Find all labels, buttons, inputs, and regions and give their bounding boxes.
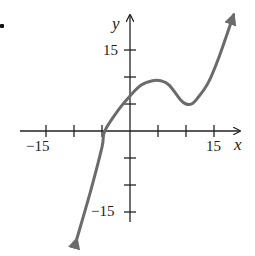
x-axis-label: x xyxy=(234,136,242,153)
x-tick-label-neg15: −15 xyxy=(26,139,49,154)
y-tick-label-15: 15 xyxy=(103,43,118,58)
function-graph xyxy=(0,0,255,256)
y-tick-label-neg15: −15 xyxy=(91,204,114,219)
x-tick-label-15: 15 xyxy=(206,139,221,154)
y-axis-label: y xyxy=(112,15,120,32)
axes xyxy=(20,15,240,222)
